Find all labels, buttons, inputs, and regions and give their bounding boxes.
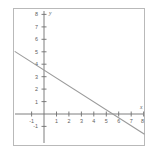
x-tick-label: 5 [105,118,108,124]
y-tick-label: 2 [35,86,38,92]
y-tick-label: 6 [35,36,38,42]
x-tick-label: 2 [67,118,70,124]
coordinate-graph: -1 1 2 3 4 5 6 7 8 -1 1 2 3 4 5 6 7 8 y … [0,0,158,154]
y-tick-label: 1 [35,99,38,105]
y-tick-label: 7 [35,24,38,30]
x-tick-label: 8 [141,118,144,124]
y-axis-label: y [48,10,52,16]
x-tick-label: 1 [55,118,58,124]
y-tick-label: 8 [35,11,38,17]
y-tick-label: -1 [33,123,38,129]
x-tick-label: 3 [80,118,83,124]
y-tick-label: 3 [35,74,38,80]
x-tick-label: 7 [130,118,133,124]
x-tick-label: 4 [92,118,95,124]
y-tick-label: 5 [35,49,38,55]
figure-container: -1 1 2 3 4 5 6 7 8 -1 1 2 3 4 5 6 7 8 y … [0,0,158,154]
x-axis-label: x [139,104,143,110]
